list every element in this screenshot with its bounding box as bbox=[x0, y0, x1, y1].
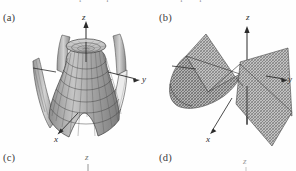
panel-label-c: (c) bbox=[3, 152, 15, 163]
panel-d-z-axis-label: z bbox=[243, 156, 247, 166]
panel-label-d: (d) bbox=[159, 152, 172, 163]
panel-b-y-axis-label: y bbox=[288, 74, 292, 84]
panel-b-z-axis-label: z bbox=[246, 12, 250, 22]
bottom-row-clipped-axes bbox=[0, 0, 296, 171]
panel-a-x-axis-label: x bbox=[54, 134, 58, 144]
panel-a-z-axis-label: z bbox=[82, 12, 86, 22]
figure-page: ple of a quadric surface is an elliptica… bbox=[0, 0, 296, 171]
panel-a-y-axis-label: y bbox=[142, 74, 146, 84]
panel-b-x-axis-label: x bbox=[206, 134, 210, 144]
panel-c-z-axis-label: z bbox=[85, 152, 89, 162]
panel-label-b: (b) bbox=[159, 12, 172, 23]
panel-label-a: (a) bbox=[3, 12, 15, 23]
